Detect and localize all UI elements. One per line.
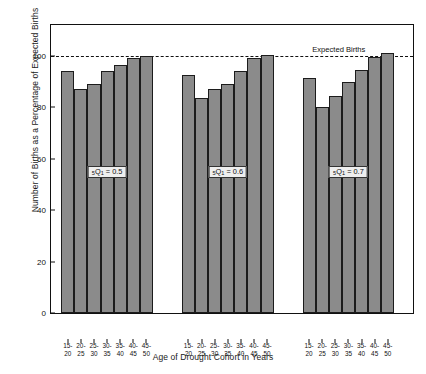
- x-axis-tick-label: 25-30: [89, 342, 98, 357]
- y-axis-tick-label: 40: [37, 206, 51, 215]
- y-axis-tick-label: 80: [37, 103, 51, 112]
- x-axis-tick-label: 35-40: [357, 342, 366, 357]
- x-axis-tick-label: 40-45: [249, 342, 258, 357]
- bar[interactable]: [234, 71, 247, 313]
- bar[interactable]: [74, 89, 87, 313]
- x-axis-tick-label: 35-40: [236, 342, 245, 357]
- x-axis-tick-label: 30-35: [344, 342, 353, 357]
- x-axis-tick-label: 40-45: [370, 342, 379, 357]
- bar[interactable]: [195, 98, 208, 313]
- plot-inner: 020406080100Expected Births15-2020-2525-…: [51, 25, 413, 313]
- bar[interactable]: [316, 107, 329, 313]
- bar[interactable]: [182, 75, 195, 313]
- x-axis-tick-label: 20-25: [197, 342, 206, 357]
- bar-group: 5Q1 = 0.5: [51, 25, 172, 313]
- x-axis-tick-label: 30-35: [223, 342, 232, 357]
- bar[interactable]: [87, 84, 100, 313]
- x-axis-tick-label: 15-20: [63, 342, 72, 357]
- bar-group: 5Q1 = 0.7: [292, 25, 413, 313]
- bar[interactable]: [208, 89, 221, 313]
- bar[interactable]: [303, 78, 316, 313]
- bar[interactable]: [101, 71, 114, 313]
- bar[interactable]: [247, 58, 260, 313]
- bar[interactable]: [355, 70, 368, 313]
- bar[interactable]: [140, 56, 153, 313]
- x-axis-tick-label: 20-25: [76, 342, 85, 357]
- bar-group: 5Q1 = 0.6: [172, 25, 293, 313]
- x-axis-tick-label: 25-30: [210, 342, 219, 357]
- series-label: 5Q1 = 0.6: [208, 166, 247, 178]
- y-axis-tick-label: 60: [37, 154, 51, 163]
- x-axis-tick-label: 35-40: [116, 342, 125, 357]
- x-axis-tick-label: 25-30: [331, 342, 340, 357]
- x-axis-tick-label: 45-50: [262, 342, 271, 357]
- bar[interactable]: [261, 55, 274, 313]
- y-axis-title: Number of Births as a Percentage of Expe…: [30, 0, 40, 235]
- bar[interactable]: [221, 84, 234, 313]
- bar[interactable]: [342, 82, 355, 313]
- plot-area: 020406080100Expected Births15-2020-2525-…: [50, 24, 414, 314]
- x-axis-tick-label: 20-25: [318, 342, 327, 357]
- series-label: 5Q1 = 0.7: [329, 166, 368, 178]
- bar[interactable]: [368, 57, 381, 313]
- chart-figure: Number of Births as a Percentage of Expe…: [0, 0, 426, 374]
- y-axis-tick-label: 20: [37, 257, 51, 266]
- x-axis-tick-label: 15-20: [184, 342, 193, 357]
- bar[interactable]: [61, 71, 74, 313]
- y-axis-tick-label: 100: [33, 51, 51, 60]
- y-axis-tick-label: 0: [42, 309, 51, 318]
- x-axis-tick-label: 40-45: [129, 342, 138, 357]
- x-axis-tick-label: 15-20: [305, 342, 314, 357]
- x-axis-tick-label: 45-50: [142, 342, 151, 357]
- bar[interactable]: [381, 53, 394, 313]
- series-label: 5Q1 = 0.5: [88, 166, 127, 178]
- bar[interactable]: [329, 96, 342, 313]
- bar[interactable]: [114, 65, 127, 313]
- x-axis-tick-label: 45-50: [383, 342, 392, 357]
- bar[interactable]: [127, 58, 140, 313]
- x-axis-tick-label: 30-35: [102, 342, 111, 357]
